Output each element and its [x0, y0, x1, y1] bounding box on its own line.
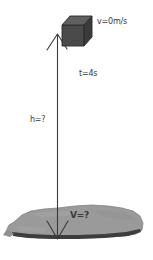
falling-cube: [62, 16, 92, 46]
physics-diagram-canvas: [0, 0, 153, 260]
cube-front-face: [62, 25, 84, 46]
final-velocity-label: V=?: [70, 211, 89, 220]
height-label: h=?: [30, 116, 45, 124]
time-label: t=4s: [79, 70, 97, 78]
initial-velocity-label: v=0m/s: [97, 18, 127, 26]
